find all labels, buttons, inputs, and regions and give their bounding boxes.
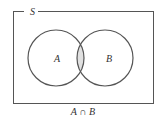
set-a-label: A [53,53,61,64]
universe-label: S [30,6,35,17]
set-b-label: B [106,53,112,64]
venn-diagram: S A B A ∩ B [0,0,160,119]
set-b-circle [77,30,133,86]
caption: A ∩ B [70,106,95,117]
